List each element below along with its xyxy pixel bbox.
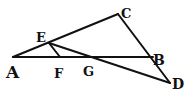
segment-cd bbox=[118, 14, 170, 83]
point-label-b: B bbox=[153, 52, 165, 68]
point-label-g: G bbox=[83, 64, 94, 79]
point-label-e: E bbox=[36, 30, 46, 45]
geometry-diagram: A B C D E F G bbox=[0, 0, 195, 91]
point-label-a: A bbox=[5, 62, 20, 82]
segment-ed bbox=[49, 43, 170, 83]
point-label-c: C bbox=[121, 6, 131, 21]
point-label-d: D bbox=[172, 76, 184, 91]
segment-ac bbox=[13, 14, 118, 57]
point-label-f: F bbox=[54, 66, 64, 81]
